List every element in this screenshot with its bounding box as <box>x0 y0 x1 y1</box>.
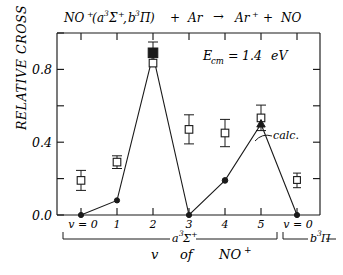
ecm-subscript: cm <box>211 56 224 66</box>
title-state1-term: Σ <box>108 11 118 25</box>
bracket-b-label-term: Π <box>320 232 331 245</box>
x-tick-label-6: v = 0 <box>283 218 312 231</box>
figure-container: NO + ( a 3 Σ + , b 3 Π ) + Ar → Ar + + N… <box>0 0 343 275</box>
x-axis-label-v: v <box>151 247 159 262</box>
ecm-value: 1.4 <box>242 48 262 63</box>
data-point-calc-2 <box>148 48 158 58</box>
bracket-a-label-charge: + <box>191 230 198 239</box>
annotation-calc-label: calc. <box>273 129 299 142</box>
data-point-calc-4 <box>222 178 228 184</box>
y-axis-label: RELATIVE CROSS SECTION <box>14 0 29 131</box>
x-axis-label-molecule-charge: + <box>244 245 252 255</box>
data-point-calc-0 <box>78 212 83 217</box>
data-point-calc-6 <box>294 212 299 217</box>
data-point-exp-2 <box>149 59 157 67</box>
data-point-calc-3 <box>186 212 191 217</box>
title-plus-2: + <box>263 11 273 25</box>
y-tick-label-2: 0.4 <box>32 135 52 150</box>
ecm-unit: eV <box>271 48 289 63</box>
x-tick-label-5: 5 <box>258 218 265 231</box>
bracket-a-label-letter: a <box>172 232 179 245</box>
title-species: NO <box>63 11 85 25</box>
y-tick-label-4: 0.8 <box>32 62 52 77</box>
title-arrow: → <box>213 9 224 24</box>
data-point-calc-1 <box>114 198 119 203</box>
title-product-1-charge: + <box>252 10 259 19</box>
ecm-equals: = <box>228 48 238 63</box>
x-tick-label-1: 1 <box>114 218 121 231</box>
relative-cross-section-chart: NO + ( a 3 Σ + , b 3 Π ) + Ar → Ar + + N… <box>0 0 343 275</box>
title-plus-1: + <box>170 11 180 25</box>
title-product-2: NO <box>280 11 302 25</box>
x-tick-label-2: 2 <box>149 218 157 231</box>
x-tick-label-4: 4 <box>221 218 229 231</box>
bracket-b-label-letter: b <box>310 232 317 245</box>
x-tick-label-0: v = 0 <box>68 218 97 231</box>
x-axis-label-molecule: NO <box>218 247 241 262</box>
title-close-paren: ) <box>149 11 155 25</box>
bracket-a-label-term: Σ <box>182 232 191 245</box>
title-reactant: Ar <box>187 11 204 25</box>
title-product-1: Ar <box>234 11 251 25</box>
x-axis-label-of: of <box>180 247 195 262</box>
y-tick-label-0: 0.0 <box>32 208 52 223</box>
title-comma: , <box>123 11 127 25</box>
